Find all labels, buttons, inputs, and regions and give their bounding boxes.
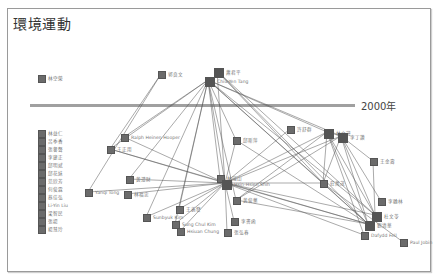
node-label: 邱斯萍 <box>243 138 258 144</box>
node-label: Li-Yin Liu <box>48 203 68 209</box>
network-node[interactable]: 黃澄財 <box>126 176 151 184</box>
network-node[interactable]: 王金壽 <box>370 158 395 166</box>
network-node[interactable]: 張譽聲 <box>38 146 63 154</box>
network-node[interactable]: Yanqi Tong <box>85 189 119 197</box>
node-label: Hsiuan Chung <box>187 229 219 235</box>
network-node[interactable]: 呂季香 <box>38 138 63 146</box>
node-square-icon <box>38 146 46 154</box>
node-label: 王正用 <box>117 147 132 153</box>
node-label: 蕭君平 <box>226 70 241 76</box>
node-label: 林空榮 <box>48 76 63 82</box>
network-node[interactable]: 郭良文 <box>158 71 183 79</box>
network-node[interactable]: 何俊霖 <box>38 186 63 194</box>
node-label: Yanqi Tong <box>95 190 119 196</box>
node-label: 黃澄財 <box>136 177 151 183</box>
node-square-icon <box>287 126 295 134</box>
network-node[interactable]: 邱斯萍 <box>233 137 258 145</box>
network-node[interactable]: Hsin-Hsien Shih <box>222 180 270 190</box>
node-square-icon <box>224 229 232 237</box>
network-edge <box>217 71 225 183</box>
network-edge <box>236 136 341 200</box>
node-label: 林福忠 <box>134 192 149 198</box>
node-label: 許舒群 <box>297 127 312 133</box>
network-node[interactable]: Li-Yin Liu <box>38 202 68 210</box>
node-square-icon <box>38 138 46 146</box>
node-label: 邱花妹 <box>48 171 63 177</box>
node-square-icon <box>38 130 46 138</box>
network-node[interactable]: 梁智民 <box>38 210 63 218</box>
network-edge <box>341 136 375 215</box>
node-square-icon <box>38 210 46 218</box>
node-label: 林益仁 <box>48 131 63 137</box>
node-label: 杜文苓 <box>384 214 399 220</box>
network-edge <box>208 80 225 183</box>
node-label: 張譽聲 <box>48 147 63 153</box>
node-square-icon <box>233 137 241 145</box>
node-square-icon <box>205 77 215 87</box>
node-square-icon <box>338 133 348 143</box>
network-node[interactable]: 邱明斌 <box>38 162 63 170</box>
network-node[interactable]: Chiu-Yen Tang <box>205 77 249 87</box>
network-node[interactable]: 李翰林 <box>378 198 403 206</box>
network-node[interactable]: 楊慧玲 <box>38 226 63 234</box>
node-square-icon <box>177 228 185 236</box>
node-square-icon <box>158 71 166 79</box>
node-square-icon <box>38 194 46 202</box>
network-node[interactable]: 邱花妹 <box>38 170 63 178</box>
network-node[interactable]: Ralph Heinen Hooper <box>121 134 180 142</box>
node-label: 黃俊藝 <box>243 198 258 204</box>
node-square-icon <box>107 146 115 154</box>
network-node[interactable]: 王正用 <box>107 146 132 154</box>
node-label: 楊慧玲 <box>48 227 63 233</box>
network-edge <box>208 80 375 215</box>
node-square-icon <box>320 180 328 188</box>
node-square-icon <box>38 186 46 194</box>
network-edge <box>208 80 341 136</box>
node-square-icon <box>38 154 46 162</box>
node-label: 李丁讚 <box>350 135 365 141</box>
network-node[interactable]: 林益仁 <box>38 130 63 138</box>
network-node[interactable]: 莊萬茂 <box>320 180 345 188</box>
network-edge <box>327 132 368 224</box>
node-square-icon <box>378 198 386 206</box>
network-node[interactable]: Dafydd Fell <box>361 232 397 240</box>
network-node[interactable]: 李建正 <box>38 154 63 162</box>
network-node[interactable]: 李丁讚 <box>338 133 365 143</box>
network-node[interactable]: 蔡佳弘 <box>38 194 63 202</box>
node-label: Hsin-Hsien Shih <box>234 182 270 188</box>
network-node[interactable]: 范欣芳 <box>38 178 63 186</box>
node-square-icon <box>222 180 232 190</box>
node-square-icon <box>121 134 129 142</box>
network-node[interactable]: 李書函 <box>231 218 256 226</box>
network-node[interactable]: Hsiuan Chung <box>177 228 219 236</box>
network-edge <box>373 161 375 215</box>
node-square-icon <box>124 191 132 199</box>
network-edge <box>146 80 208 217</box>
network-node[interactable]: 林空榮 <box>38 75 63 83</box>
node-label: Chiu-Yen Tang <box>217 79 249 85</box>
node-label: 張揚 <box>48 219 58 225</box>
node-label: 王義發 <box>186 207 201 213</box>
node-square-icon <box>400 239 408 247</box>
network-node[interactable]: 林福忠 <box>124 191 149 199</box>
node-label: 王金壽 <box>380 159 395 165</box>
node-label: 何俊霖 <box>48 187 63 193</box>
node-label: 呂季香 <box>48 139 63 145</box>
node-label: 李書函 <box>241 219 256 225</box>
network-node[interactable]: 王義發 <box>176 206 201 214</box>
node-square-icon <box>233 197 241 205</box>
network-node[interactable]: 許舒群 <box>287 126 312 134</box>
node-square-icon <box>38 178 46 186</box>
network-node[interactable]: 張弘春 <box>224 229 249 237</box>
network-node[interactable]: 劉清華 <box>365 221 392 231</box>
node-square-icon <box>231 218 239 226</box>
node-square-icon <box>143 214 151 222</box>
network-node[interactable]: Paul Jobin <box>400 239 432 247</box>
network-edge <box>225 183 364 235</box>
network-node[interactable]: 黃俊藝 <box>233 197 258 205</box>
network-edge <box>129 80 208 179</box>
node-square-icon <box>370 158 378 166</box>
node-label: 莊萬茂 <box>330 181 345 187</box>
node-label: Dafydd Fell <box>371 233 397 239</box>
network-node[interactable]: 張揚 <box>38 218 58 226</box>
